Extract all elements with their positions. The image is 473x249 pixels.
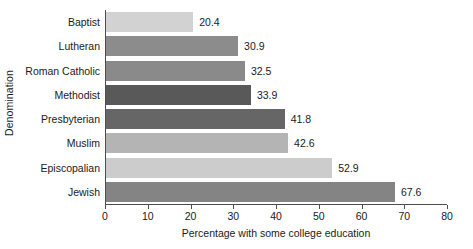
category-label: Methodist <box>54 88 100 102</box>
x-tick-mark <box>233 205 234 209</box>
category-label: Roman Catholic <box>25 64 100 78</box>
bar-value-label: 41.8 <box>291 112 311 126</box>
x-tick-mark <box>447 205 448 209</box>
x-tick-label: 0 <box>85 210 125 222</box>
bar <box>106 12 193 32</box>
bar-value-label: 32.5 <box>251 64 271 78</box>
category-axis-labels: BaptistLutheranRoman CatholicMethodistPr… <box>18 10 104 204</box>
bar <box>106 109 285 129</box>
bar <box>106 158 332 178</box>
x-tick-label: 10 <box>128 210 168 222</box>
category-label: Presbyterian <box>41 112 100 126</box>
category-label: Jewish <box>68 185 100 199</box>
x-tick-label: 40 <box>256 210 296 222</box>
bar-value-label: 20.4 <box>199 15 219 29</box>
bar <box>106 133 288 153</box>
bar-value-label: 33.9 <box>257 88 277 102</box>
bar <box>106 61 245 81</box>
bar-value-label: 67.6 <box>401 185 421 199</box>
category-label: Muslim <box>67 136 100 150</box>
category-label: Lutheran <box>59 39 100 53</box>
bar <box>106 182 395 202</box>
plot-area: 20.430.932.533.941.842.652.967.6 <box>105 10 447 204</box>
x-tick-mark <box>105 205 106 209</box>
x-tick-mark <box>319 205 320 209</box>
bar <box>106 36 238 56</box>
bar-value-label: 52.9 <box>338 161 358 175</box>
bar-value-label: 42.6 <box>294 136 314 150</box>
x-axis-ticks: 01020304050607080 <box>105 205 447 225</box>
x-tick-mark <box>191 205 192 209</box>
y-axis-title: Denomination <box>0 0 18 205</box>
category-label: Episcopalian <box>40 161 100 175</box>
x-tick-mark <box>276 205 277 209</box>
x-tick-label: 80 <box>427 210 467 222</box>
x-tick-label: 50 <box>299 210 339 222</box>
bar-value-label: 30.9 <box>244 39 264 53</box>
x-tick-mark <box>362 205 363 209</box>
x-tick-label: 30 <box>213 210 253 222</box>
x-tick-label: 60 <box>342 210 382 222</box>
x-axis-title: Percentage with some college education <box>105 227 447 239</box>
x-tick-mark <box>148 205 149 209</box>
bar <box>106 85 251 105</box>
y-axis-title-text: Denomination <box>3 70 15 136</box>
category-label: Baptist <box>68 15 100 29</box>
x-tick-mark <box>404 205 405 209</box>
x-tick-label: 70 <box>384 210 424 222</box>
bar-chart: Denomination BaptistLutheranRoman Cathol… <box>0 0 473 249</box>
x-tick-label: 20 <box>171 210 211 222</box>
